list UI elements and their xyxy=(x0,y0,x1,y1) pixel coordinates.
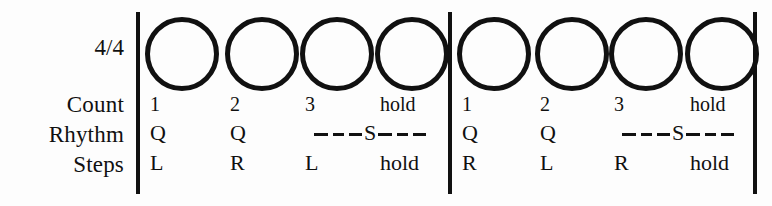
count-value: 1 xyxy=(462,93,472,115)
count-value: 3 xyxy=(305,93,315,115)
steps-value: hold xyxy=(380,152,419,174)
steps-value: R xyxy=(462,152,477,174)
steps-value: R xyxy=(614,152,629,174)
slow-letter: S xyxy=(670,122,686,144)
steps-value: L xyxy=(150,152,163,174)
rhythm-value: Q xyxy=(150,122,166,144)
row-label-column: 4/4 Count Rhythm Steps xyxy=(0,0,130,206)
slow-dash-left xyxy=(314,133,362,136)
time-signature-label: 4/4 xyxy=(95,36,124,59)
note-circle xyxy=(609,17,683,91)
rhythm-value: Q xyxy=(462,122,478,144)
steps-value: R xyxy=(230,152,245,174)
slow-dash-left xyxy=(622,133,670,136)
count-value: 3 xyxy=(614,93,624,115)
row-label-count: Count xyxy=(67,93,124,116)
count-value: hold xyxy=(690,93,726,115)
barline-start xyxy=(136,12,140,194)
slow-rhythm-marker: S xyxy=(292,122,448,146)
row-label-rhythm: Rhythm xyxy=(49,123,124,146)
beat-column-3: 3 L xyxy=(297,0,375,206)
steps-value: L xyxy=(305,152,318,174)
steps-value: L xyxy=(540,152,553,174)
note-circle xyxy=(375,17,449,91)
beat-column-3: 3 R xyxy=(606,0,684,206)
note-circle xyxy=(225,17,299,91)
slow-dash-right xyxy=(378,133,426,136)
note-circle xyxy=(300,17,374,91)
note-circle xyxy=(457,17,531,91)
count-value: 2 xyxy=(540,93,550,115)
beat-column-2: 2 Q R xyxy=(222,0,300,206)
beat-column-2: 2 Q L xyxy=(532,0,610,206)
beat-column-1: 1 Q L xyxy=(142,0,220,206)
slow-dash-right xyxy=(686,133,734,136)
note-circle xyxy=(685,17,759,91)
rhythm-value: Q xyxy=(230,122,246,144)
rhythm-value: Q xyxy=(540,122,556,144)
beat-column-4: hold hold xyxy=(682,0,760,206)
rhythm-notation-chart: 4/4 Count Rhythm Steps 1 Q L 2 Q R 3 L h… xyxy=(0,0,772,206)
steps-value: hold xyxy=(690,152,729,174)
measure-1: 1 Q L 2 Q R 3 L hold hold S xyxy=(142,0,448,206)
note-circle xyxy=(535,17,609,91)
measure-2: 1 Q R 2 Q L 3 R hold hold S xyxy=(454,0,754,206)
slow-rhythm-marker: S xyxy=(600,122,756,146)
slow-letter: S xyxy=(362,122,378,144)
note-circle xyxy=(145,17,219,91)
beat-column-4: hold hold xyxy=(372,0,450,206)
row-label-steps: Steps xyxy=(73,153,124,176)
beat-column-1: 1 Q R xyxy=(454,0,532,206)
count-value: 1 xyxy=(150,93,160,115)
count-value: hold xyxy=(380,93,416,115)
count-value: 2 xyxy=(230,93,240,115)
